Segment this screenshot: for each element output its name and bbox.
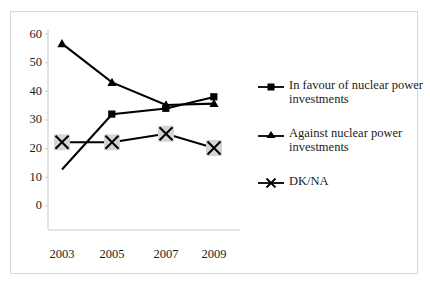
y-tick-label-60: 60 <box>12 27 42 42</box>
chart-legend: In favour of nuclear power investments A… <box>258 78 426 202</box>
legend-item-in-favour: In favour of nuclear power investments <box>258 78 426 106</box>
y-tick-label-20: 20 <box>12 141 42 156</box>
legend-label-in-favour: In favour of nuclear power investments <box>289 78 426 106</box>
legend-item-dk-na: DK/NA <box>258 174 426 188</box>
legend-item-against: Against nuclear power investments <box>258 126 426 154</box>
y-tick-label-10: 10 <box>12 170 42 185</box>
x-tick-label-2005: 2005 <box>92 247 132 262</box>
x-marker-icon <box>258 178 284 188</box>
legend-label-dk-na: DK/NA <box>289 174 426 188</box>
y-tick-label-50: 50 <box>12 55 42 70</box>
y-tick-label-30: 30 <box>12 112 42 127</box>
y-tick-label-0: 0 <box>12 198 42 213</box>
triangle-marker-icon <box>258 130 284 140</box>
square-marker-icon <box>258 82 284 92</box>
series-against <box>57 39 218 109</box>
x-tick-label-2007: 2007 <box>146 247 186 262</box>
x-tick-label-2003: 2003 <box>42 247 82 262</box>
y-tick-label-40: 40 <box>12 84 42 99</box>
legend-label-against: Against nuclear power investments <box>289 126 426 154</box>
x-tick-label-2009: 2009 <box>194 247 234 262</box>
